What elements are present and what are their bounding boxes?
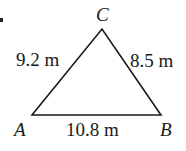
triangle-shape — [32, 29, 161, 115]
side-label-ac: 9.2 m — [16, 49, 60, 70]
side-label-ab: 10.8 m — [66, 119, 119, 140]
bullet-dot — [0, 18, 3, 22]
vertex-label-c: C — [96, 4, 109, 25]
triangle-diagram: C A B 9.2 m 8.5 m 10.8 m — [0, 0, 186, 151]
vertex-label-a: A — [12, 119, 26, 140]
side-label-bc: 8.5 m — [130, 50, 174, 71]
vertex-label-b: B — [160, 119, 172, 140]
